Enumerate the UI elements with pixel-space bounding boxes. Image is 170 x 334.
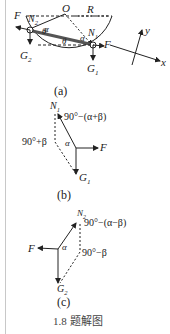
figure-c-graphics <box>38 223 80 283</box>
label-O: O <box>62 3 70 14</box>
axis-label-y: y <box>145 25 150 36</box>
label-R: R <box>87 4 94 15</box>
angle-label-top-b: 90°−(α+β) <box>64 112 106 122</box>
angle-label-left-b: 90°+β <box>22 137 47 147</box>
label-theta-2: θ <box>62 37 66 46</box>
label-F-left: F <box>14 10 21 21</box>
figure-title: 1.8 题解图 <box>53 316 103 327</box>
label-alpha-2: α <box>80 34 85 43</box>
label-G2: G2 <box>20 50 32 64</box>
label-N1-b: N1 <box>50 101 60 114</box>
label-theta-1: θ <box>42 27 46 36</box>
caption-a: (a) <box>54 85 67 97</box>
label-alpha-b: α <box>65 139 70 148</box>
figure-b-graphics <box>55 114 98 174</box>
label-F-c: F <box>28 243 35 254</box>
label-N2: N2 <box>28 14 38 27</box>
label-N1: N1 <box>88 28 98 41</box>
caption-b: (b) <box>57 189 71 201</box>
label-G1-b: G1 <box>79 172 91 186</box>
axis-label-x: x <box>161 57 166 68</box>
caption-c: (c) <box>57 296 70 308</box>
angle-label-top-c: 90°−(α−β) <box>84 218 126 228</box>
label-alpha-c: α <box>62 243 67 252</box>
label-F-right: F <box>104 39 111 50</box>
angle-label-right-c: 90°−β <box>82 248 107 258</box>
label-F-b: F <box>100 142 107 153</box>
label-G1: G1 <box>87 63 99 77</box>
